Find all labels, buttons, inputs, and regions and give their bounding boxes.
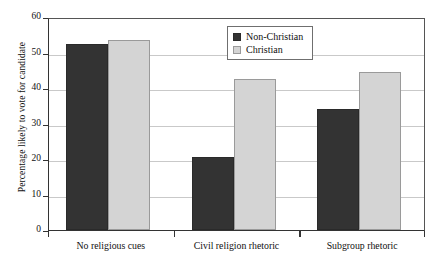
bar	[192, 157, 234, 230]
y-tick-label: 10	[32, 189, 42, 199]
bar-chart: Percentage likely to vote for candidate …	[0, 0, 438, 267]
x-axis-category-label: Subgroup rhetoric	[327, 240, 398, 251]
bar-group	[66, 19, 150, 230]
x-axis-labels: No religious cuesCivil religion rhetoric…	[48, 240, 425, 260]
y-tick-label: 30	[32, 118, 42, 128]
legend-swatch-icon-non-christian	[233, 33, 241, 41]
y-tick-label: 50	[32, 47, 42, 57]
bar	[234, 79, 276, 230]
y-tick-label: 20	[32, 153, 42, 163]
bar	[66, 44, 108, 230]
x-axis-ticks	[48, 231, 425, 239]
y-tick-label: 0	[36, 224, 41, 234]
y-axis-ticks: 0102030405060	[0, 18, 48, 231]
x-tick-mark	[174, 231, 175, 237]
x-tick-mark	[424, 231, 425, 237]
legend-label-non-christian: Non-Christian	[246, 31, 303, 42]
legend-item-non-christian: Non-Christian	[233, 30, 303, 43]
legend-swatch-icon-christian	[233, 46, 241, 54]
y-tick-label: 40	[32, 82, 42, 92]
x-tick-mark	[299, 231, 300, 237]
legend: Non-Christian Christian	[227, 26, 313, 60]
x-axis-category-label: Civil religion rhetoric	[194, 240, 279, 251]
x-axis-category-label: No religious cues	[77, 240, 146, 251]
legend-item-christian: Christian	[233, 43, 303, 56]
bar-group	[317, 19, 401, 230]
bar	[317, 109, 359, 230]
legend-label-christian: Christian	[246, 44, 283, 55]
bar	[359, 72, 401, 230]
bar	[108, 40, 150, 230]
x-tick-mark	[48, 231, 49, 237]
y-tick-label: 60	[32, 11, 42, 21]
